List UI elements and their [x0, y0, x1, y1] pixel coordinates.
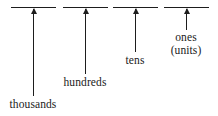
label-units-text: (units): [171, 44, 202, 57]
label-tens-text: tens: [126, 54, 145, 66]
arrowhead-icon: [184, 8, 190, 14]
arrowhead-icon: [31, 8, 37, 14]
arrowhead-icon: [133, 8, 139, 14]
arrowhead-icon: [83, 8, 89, 14]
arrow-ones: [186, 9, 187, 30]
label-thousands: thousands: [10, 98, 57, 111]
label-hundreds: hundreds: [64, 76, 107, 89]
label-ones-text: ones: [171, 31, 202, 44]
label-tens: tens: [126, 54, 145, 67]
place-value-diagram: thousands hundreds tens ones (units): [0, 0, 218, 116]
label-thousands-text: thousands: [10, 98, 57, 110]
label-ones: ones (units): [171, 31, 202, 56]
arrow-thousands: [33, 9, 34, 96]
arrow-hundreds: [85, 9, 86, 74]
label-hundreds-text: hundreds: [64, 76, 107, 88]
arrow-tens: [135, 9, 136, 52]
